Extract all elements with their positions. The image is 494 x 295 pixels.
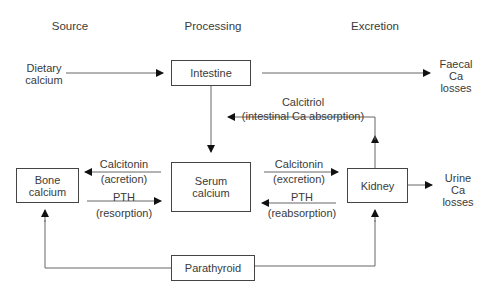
urine-line3: losses	[440, 196, 476, 208]
edge-pth-reabsorption-label: PTH (reabsorption)	[268, 191, 336, 219]
calcitonin-bone-line1: Calcitonin	[100, 158, 148, 170]
node-faecal-losses: Faecal Ca losses	[436, 58, 476, 94]
pth-kidney-line2: (reabsorption)	[268, 207, 336, 219]
urine-line2: Ca	[440, 184, 476, 196]
edge-calcitonin-excretion-label: Calcitonin (excretion)	[273, 158, 325, 185]
calcitriol-line2: (intestinal Ca absorption)	[242, 110, 364, 122]
edge-calcitriol-label: Calcitriol (intestinal Ca absorption)	[242, 96, 364, 122]
header-excretion: Excretion	[350, 20, 400, 32]
kidney-label: Kidney	[361, 180, 395, 192]
calcitriol-line1: Calcitriol	[242, 96, 364, 108]
faecal-line2: Ca	[436, 70, 476, 82]
calcitonin-kidney-line2: (excretion)	[273, 173, 325, 185]
edge-calcitonin-acretion-label: Calcitonin (acretion)	[100, 158, 148, 185]
header-source: Source	[50, 20, 90, 32]
node-intestine: Intestine	[171, 60, 251, 86]
intestine-label: Intestine	[190, 67, 232, 79]
faecal-line1: Faecal	[436, 58, 476, 70]
node-bone-calcium: Bone calcium	[16, 168, 79, 203]
pth-bone-line1: PTH	[96, 191, 152, 203]
dietary-line1: Dietary	[22, 62, 66, 74]
faecal-line3: losses	[436, 82, 476, 94]
node-dietary-calcium: Dietary calcium	[22, 62, 66, 86]
serum-line2: calcium	[192, 187, 229, 199]
bone-line1: Bone	[35, 174, 61, 186]
bone-line2: calcium	[29, 186, 66, 198]
pth-kidney-line1: PTH	[268, 191, 336, 203]
node-serum-calcium: Serum calcium	[171, 162, 251, 212]
parathyroid-to-kidney-line	[254, 220, 375, 266]
calcitonin-bone-line2: (acretion)	[100, 173, 148, 185]
dietary-line2: calcium	[22, 74, 66, 86]
urine-line1: Urine	[440, 172, 476, 184]
parathyroid-to-bone-line	[45, 220, 171, 268]
edge-pth-resorption-label: PTH (resorption)	[96, 191, 152, 219]
parathyroid-label: Parathyroid	[185, 262, 241, 274]
header-processing: Processing	[183, 20, 243, 32]
pth-bone-line2: (resorption)	[96, 207, 152, 219]
node-kidney: Kidney	[347, 168, 408, 203]
node-parathyroid: Parathyroid	[171, 255, 255, 281]
calcitonin-kidney-line1: Calcitonin	[273, 158, 325, 170]
serum-line1: Serum	[195, 175, 227, 187]
node-urine-losses: Urine Ca losses	[440, 172, 476, 208]
connector-lines	[0, 0, 494, 295]
